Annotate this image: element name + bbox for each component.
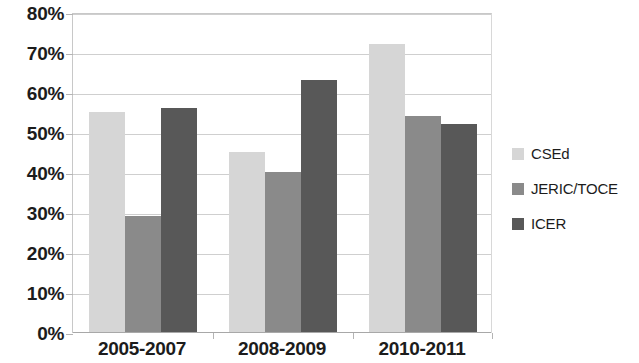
legend-item: ICER: [512, 206, 639, 241]
bar: [369, 44, 405, 332]
bar: [229, 152, 265, 332]
bar-series-group: [73, 14, 491, 333]
y-axis-tick-mark: [66, 254, 73, 255]
x-axis-category-label: 2010-2011: [352, 338, 492, 360]
y-axis-tick-mark: [66, 294, 73, 295]
legend-swatch-icon: [512, 218, 524, 230]
x-axis-tick-mark: [492, 333, 493, 339]
plot-area: [72, 13, 492, 333]
x-axis-category-label: 2005-2007: [72, 338, 212, 360]
bar: [89, 112, 125, 332]
bar: [265, 172, 301, 332]
x-axis-category-label: 2008-2009: [212, 338, 352, 360]
y-axis-tick-label: 30%: [0, 204, 64, 223]
legend-swatch-icon: [512, 183, 524, 195]
y-axis-tick-mark: [66, 214, 73, 215]
y-axis-tick-label: 40%: [0, 164, 64, 183]
y-axis-tick-mark: [66, 54, 73, 55]
legend-label: ICER: [531, 215, 566, 232]
x-axis-line: [73, 332, 491, 333]
y-axis-tick-label: 70%: [0, 44, 64, 63]
y-axis-tick-label: 50%: [0, 124, 64, 143]
bar: [441, 124, 477, 332]
legend-item: CSEd: [512, 136, 639, 171]
y-axis-tick-labels: 80%70%60%50%40%30%20%10%0%: [0, 0, 64, 363]
legend-label: JERIC/TOCE: [531, 180, 618, 197]
bar: [161, 108, 197, 332]
legend-item: JERIC/TOCE: [512, 171, 639, 206]
legend-label: CSEd: [531, 145, 569, 162]
y-axis-tick-mark: [66, 334, 73, 335]
bar: [125, 216, 161, 332]
legend-swatch-icon: [512, 148, 524, 160]
y-axis-tick-label: 20%: [0, 244, 64, 263]
y-axis-tick-label: 0%: [0, 324, 64, 343]
y-axis-tick-mark: [66, 174, 73, 175]
bar: [301, 80, 337, 332]
chart-legend: CSEdJERIC/TOCEICER: [512, 136, 639, 241]
y-axis-tick-mark: [66, 94, 73, 95]
x-axis-category-labels: 2005-20072008-20092010-2011: [72, 336, 492, 363]
y-axis-tick-mark: [66, 134, 73, 135]
y-axis-tick-label: 10%: [0, 284, 64, 303]
y-axis-tick-mark: [66, 14, 73, 15]
y-axis-tick-label: 80%: [0, 4, 64, 23]
y-axis-tick-label: 60%: [0, 84, 64, 103]
bar: [405, 116, 441, 332]
bar-chart: 80%70%60%50%40%30%20%10%0% 2005-20072008…: [0, 0, 639, 363]
